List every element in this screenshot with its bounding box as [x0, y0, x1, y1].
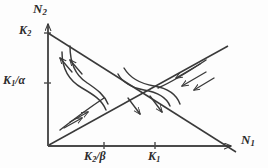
isocline-species-2: [48, 33, 236, 152]
trajectory-lower-left-in: [60, 98, 104, 130]
arrow-out-down-right-1: [128, 98, 140, 114]
phase-plane-canvas: [0, 0, 268, 168]
direction-arrows: [60, 58, 214, 128]
tick-label-K1: K1: [148, 150, 160, 164]
y-axis-label: N2: [33, 2, 47, 17]
tick-label-K2: K2: [19, 24, 31, 38]
arrow-in-down-left-2: [182, 72, 206, 86]
arrow-in-down-left-3: [194, 78, 214, 90]
arrow-in-up-right-2: [70, 112, 88, 122]
trajectory-upper-left: [70, 46, 108, 104]
trajectory-lower-right: [118, 74, 170, 106]
arrow-in-down-left-1: [176, 64, 200, 78]
x-axis-label: N1: [241, 133, 255, 148]
tick-label-K2-over-beta: K2/β: [84, 150, 106, 164]
phase-plane-figure: N2 N1 K2 K1/α K2/β K1: [0, 0, 268, 168]
tick-label-K1-over-alpha: K1/α: [3, 74, 25, 88]
isocline-group: [48, 33, 236, 152]
